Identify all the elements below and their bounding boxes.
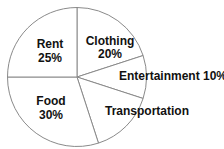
label-transportation: Transportation — [105, 104, 189, 118]
label-entertainment: Entertainment 10% — [119, 69, 224, 83]
pie-chart: Rent 25% Clothing 20% Entertainment 10% … — [0, 0, 224, 149]
label-clothing-name: Clothing — [86, 34, 135, 48]
label-food-name: Food — [36, 94, 65, 108]
label-rent-value: 25% — [38, 51, 62, 65]
label-clothing-value: 20% — [98, 47, 122, 61]
label-rent-name: Rent — [37, 37, 64, 51]
label-food-value: 30% — [39, 108, 63, 122]
